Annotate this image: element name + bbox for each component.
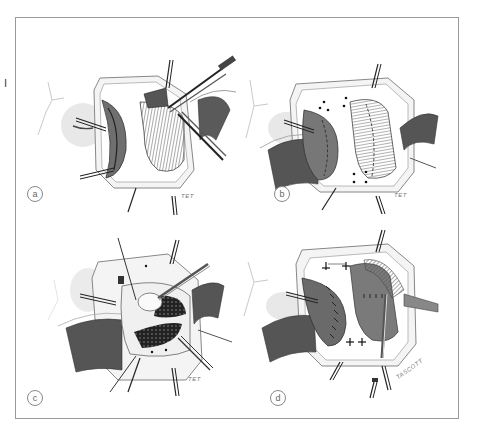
panel-c: c TET bbox=[18, 220, 240, 420]
panel-label-d: d bbox=[270, 390, 286, 406]
panel-label-b: b bbox=[274, 186, 290, 202]
panel-a: a TET bbox=[18, 20, 240, 220]
surgical-illustration-d bbox=[238, 220, 460, 420]
panel-d: d TASCOTT bbox=[238, 220, 460, 420]
illustration-plate: I bbox=[0, 0, 478, 439]
artist-signature-b: TET bbox=[394, 192, 407, 198]
panel-label-a: a bbox=[27, 186, 43, 202]
artist-signature-a: TET bbox=[181, 193, 194, 199]
panel-b: b TET bbox=[238, 20, 460, 220]
surgical-illustration-a bbox=[18, 20, 240, 220]
figure-frame: a TET bbox=[15, 17, 459, 419]
surgical-illustration-b bbox=[238, 20, 460, 220]
panel-label-c: c bbox=[27, 390, 43, 406]
artist-signature-c: TET bbox=[188, 376, 201, 382]
surgical-illustration-c bbox=[18, 220, 240, 420]
plate-marker: I bbox=[4, 78, 7, 89]
